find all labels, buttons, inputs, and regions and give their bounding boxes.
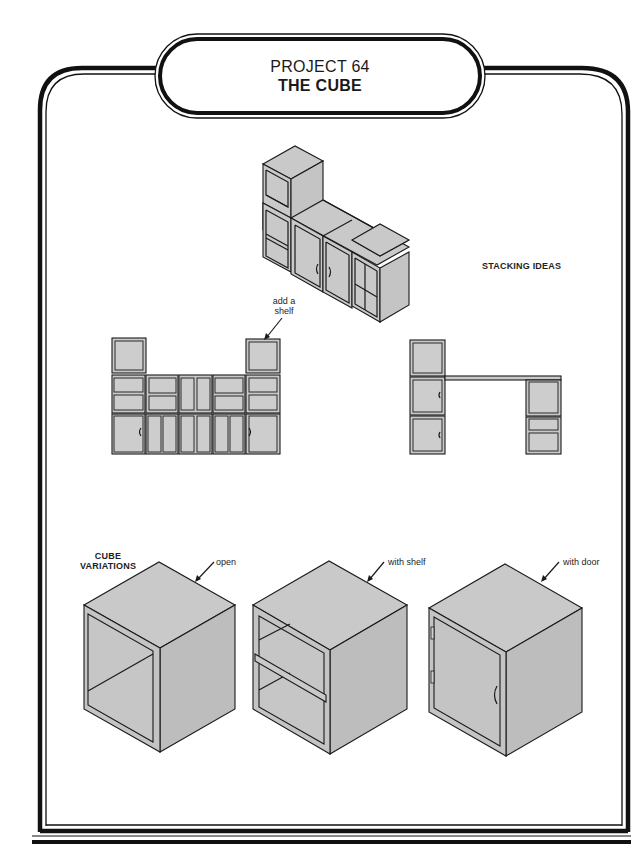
with-shelf-label: with shelf	[388, 557, 426, 567]
title-block: PROJECT 64 THE CUBE	[158, 36, 482, 116]
cube-open-illustration	[84, 562, 235, 752]
wall-unit-illustration	[112, 318, 282, 454]
project-title: THE CUBE	[278, 76, 362, 95]
add-shelf-annotation: add a shelf	[266, 296, 302, 316]
cube-with-shelf-illustration	[253, 561, 407, 754]
cube-variations-heading: CUBE VARIATIONS	[80, 551, 136, 571]
stacking-ideas-heading: STACKING IDEAS	[482, 261, 561, 271]
project-page: .ln { stroke: #1a1a1a; stroke-width: 1.2…	[0, 0, 639, 867]
open-label: open	[216, 557, 236, 567]
cube-with-door-illustration	[429, 562, 582, 756]
add-shelf-line1: add a	[266, 296, 302, 306]
with-door-label: with door	[563, 557, 600, 567]
add-shelf-line2: shelf	[266, 306, 302, 316]
cube-variations-line1: CUBE	[80, 551, 136, 561]
page-frame-and-illustrations: .ln { stroke: #1a1a1a; stroke-width: 1.2…	[0, 0, 639, 867]
project-number: PROJECT 64	[270, 57, 370, 76]
desk-illustration	[410, 340, 561, 454]
cube-variations-line2: VARIATIONS	[80, 561, 136, 571]
